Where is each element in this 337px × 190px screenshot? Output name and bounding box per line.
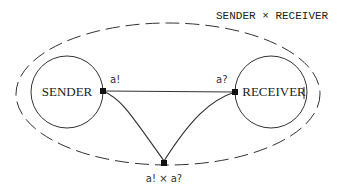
sender-port-label: a! <box>110 74 120 85</box>
channel-line <box>103 91 235 92</box>
sender-port <box>100 88 106 94</box>
composite-port-label: a! × a? <box>146 173 182 184</box>
sender-label: SENDER <box>42 84 93 99</box>
composite-to-receiver-edge <box>164 92 235 161</box>
sender-to-composite-edge <box>103 91 164 161</box>
diagram-title: SENDER × RECEIVER <box>216 10 329 22</box>
receiver-label: RECEIVER <box>242 84 306 99</box>
receiver-port <box>232 89 238 95</box>
product-diagram: SENDER RECEIVER a! a? a! × a? SENDER × R… <box>0 0 337 190</box>
receiver-port-label: a? <box>216 74 227 85</box>
composite-port <box>161 160 167 166</box>
